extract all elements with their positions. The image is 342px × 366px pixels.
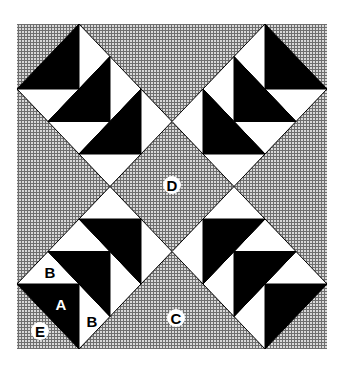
label-text: E [35,323,45,340]
label-e: E [31,322,49,340]
label-text: B [45,264,56,281]
label-text: A [56,296,67,313]
label-text: D [167,177,178,194]
quilt-diagram: DCEABB [0,0,342,366]
label-b1: B [45,264,56,281]
label-text: C [171,310,182,327]
label-d: D [163,176,181,194]
label-text: B [87,313,98,330]
label-a: A [56,296,67,313]
label-b2: B [87,313,98,330]
label-c: C [167,309,185,327]
